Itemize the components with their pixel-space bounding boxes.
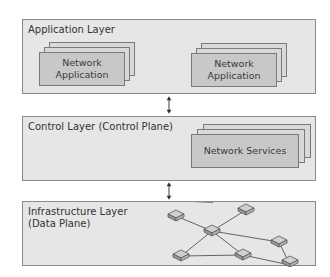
- bidirectional-arrow-icon: [165, 180, 173, 202]
- network-services-stack: Network Services: [191, 124, 311, 170]
- network-application-stack-2: Network Application: [191, 43, 287, 89]
- network-switch-icon: [168, 210, 184, 221]
- network-links: [176, 210, 290, 265]
- network-application-label: Network Application: [40, 53, 124, 85]
- bidirectional-arrow-icon: [165, 94, 173, 116]
- network-services-label: Network Services: [192, 135, 298, 167]
- network-application-stack-1: Network Application: [39, 42, 135, 88]
- infrastructure-layer: Infrastructure Layer (Data Plane): [22, 201, 316, 266]
- network-switch-icon: [271, 236, 287, 247]
- network-application-card: Network Application: [191, 53, 277, 87]
- application-layer-title: Application Layer: [28, 24, 115, 36]
- network-application-label: Network Application: [192, 54, 276, 86]
- network-switch-icon: [282, 256, 298, 267]
- network-services-card: Network Services: [191, 134, 299, 168]
- network-topology: [23, 202, 317, 267]
- network-switch-icon: [204, 225, 220, 236]
- control-layer: Control Layer (Control Plane) Network Se…: [22, 116, 316, 181]
- network-application-card: Network Application: [39, 52, 125, 86]
- application-layer: Application Layer Network Application Ne…: [22, 19, 316, 94]
- control-layer-title: Control Layer (Control Plane): [28, 121, 173, 133]
